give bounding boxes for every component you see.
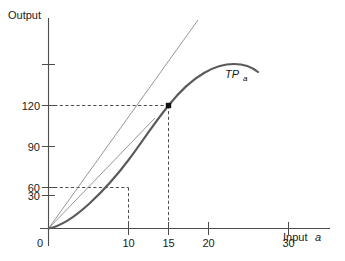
x-tick-label-15: 15: [162, 237, 174, 249]
y-tick-label-120: 120: [22, 100, 40, 112]
tangency-point-marker: [166, 103, 171, 108]
x-tick-label-20: 20: [202, 237, 214, 249]
y-tick-label-90: 90: [28, 141, 40, 153]
y-tick-label-30: 30: [28, 190, 40, 202]
curve-label-main: TP: [225, 68, 240, 80]
figure-container: Output Input a 120 90 60 30 0 10 15 20 3…: [0, 0, 345, 261]
chart-canvas: Output Input a 120 90 60 30 0 10 15 20 3…: [0, 0, 345, 261]
x-tick-label-0: 0: [37, 237, 43, 249]
x-tick-label-10: 10: [122, 237, 134, 249]
y-axis-title: Output: [8, 9, 41, 21]
curve-label-subscript: a: [243, 74, 248, 83]
x-tick-label-30: 30: [282, 237, 294, 249]
chart-background: [0, 0, 345, 261]
x-axis-title-variable: a: [315, 231, 321, 243]
